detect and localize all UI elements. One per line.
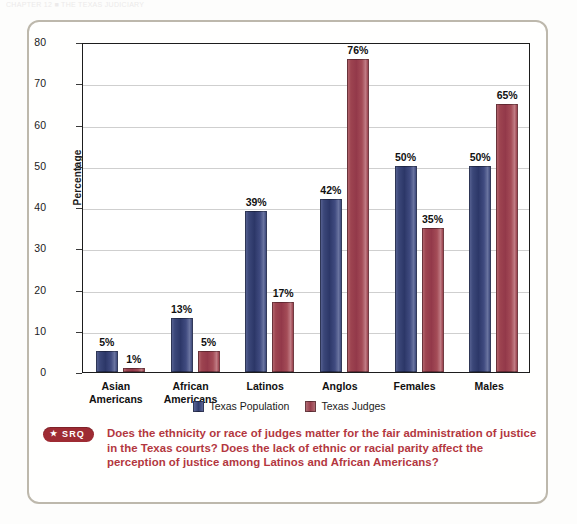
bar-value-label: 17% <box>260 287 306 299</box>
srq-badge-label: SRQ <box>62 429 85 439</box>
legend-item: Texas Population <box>193 400 289 412</box>
y-axis-tick-label: 50 <box>16 160 46 172</box>
bar-texas-judges <box>272 302 294 372</box>
bar-value-label: 5% <box>186 336 232 348</box>
y-axis-tick-mark <box>76 373 82 374</box>
bar-group: 50%35%Females <box>391 42 448 372</box>
legend-swatch-red <box>305 401 316 412</box>
bar-group: 13%5%AfricanAmericans <box>167 42 224 372</box>
chart-frame: Percentage 01020304050607080 5%1%AsianAm… <box>27 20 548 504</box>
bar-value-label: 65% <box>484 89 530 101</box>
chart-legend: Texas PopulationTexas Judges <box>29 400 550 412</box>
srq-question-text: Does the ethnicity or race of judges mat… <box>107 426 539 470</box>
bar-value-label: 50% <box>383 151 429 163</box>
gridline <box>83 250 529 251</box>
y-axis-tick-label: 10 <box>16 325 46 337</box>
y-axis-tick-label: 0 <box>16 366 46 378</box>
legend-label: Texas Population <box>209 400 289 412</box>
y-axis-tick-label: 60 <box>16 119 46 131</box>
gridline <box>83 333 529 334</box>
y-axis-label: Percentage <box>72 118 83 238</box>
bar-texas-judges <box>123 368 145 372</box>
legend-label: Texas Judges <box>321 400 385 412</box>
gridline <box>83 85 529 86</box>
y-axis-tick-label: 30 <box>16 242 46 254</box>
bar-value-label: 13% <box>159 303 205 315</box>
srq-badge: ★ SRQ <box>43 427 94 442</box>
y-axis-tick-label: 70 <box>16 77 46 89</box>
bar-texas-judges <box>347 59 369 373</box>
page-header-sliver: CHAPTER 12 ■ THE TEXAS JUDICIARY <box>6 0 266 9</box>
bar-value-label: 1% <box>111 353 157 365</box>
bar-texas-population <box>395 166 417 372</box>
gridline <box>83 209 529 210</box>
bar-group: 50%65%Males <box>465 42 522 372</box>
bar-texas-population <box>320 199 342 372</box>
x-axis-category-label: Males <box>441 380 537 393</box>
bar-texas-judges <box>422 228 444 372</box>
bar-texas-judges <box>496 104 518 372</box>
bar-texas-judges <box>198 351 220 372</box>
bar-value-label: 76% <box>335 44 381 56</box>
gridline <box>83 168 529 169</box>
bar-value-label: 35% <box>410 213 456 225</box>
bar-value-label: 5% <box>84 336 130 348</box>
bar-group: 42%76%Anglos <box>316 42 373 372</box>
y-axis-tick-label: 40 <box>16 201 46 213</box>
plot-area: 5%1%AsianAmericans13%5%AfricanAmericans3… <box>82 43 530 373</box>
bar-texas-population <box>469 166 491 372</box>
gridline <box>83 127 529 128</box>
legend-swatch-blue <box>193 401 204 412</box>
star-icon: ★ <box>50 430 58 438</box>
bar-group: 5%1%AsianAmericans <box>92 42 149 372</box>
figure-container: CHAPTER 12 ■ THE TEXAS JUDICIARY Percent… <box>0 0 577 524</box>
y-axis-tick-label: 20 <box>16 284 46 296</box>
y-axis-tick-label: 80 <box>16 36 46 48</box>
legend-item: Texas Judges <box>305 400 385 412</box>
bar-value-label: 39% <box>233 196 279 208</box>
srq-callout: ★ SRQ Does the ethnicity or race of judg… <box>43 426 539 470</box>
bar-group: 39%17%Latinos <box>241 42 298 372</box>
